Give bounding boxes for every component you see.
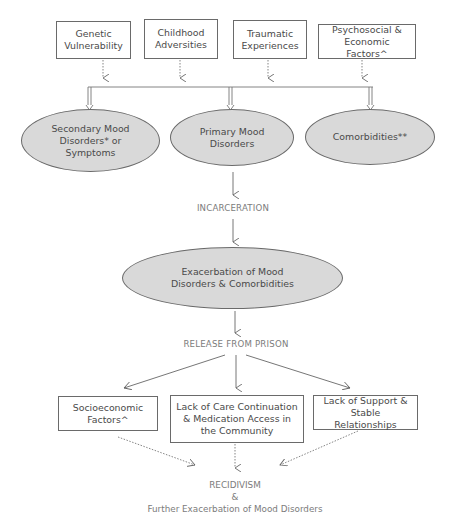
ellipse-text-line: Primary Mood <box>200 126 265 137</box>
post-release-lack-of-support: Lack of Support & Stable Relationships <box>313 395 418 430</box>
ellipse-text-line: Disorders & Comorbidities <box>171 278 294 289</box>
stage-incarceration: INCARCERATION <box>183 203 283 213</box>
flow-diagram: Genetic Vulnerability Childhood Adversit… <box>0 0 451 529</box>
ellipse-text-line: Symptoms <box>65 147 115 158</box>
box-text-line: Socioeconomic <box>73 402 143 413</box>
ellipse-exacerbation: Exacerbation of Mood Disorders & Comorbi… <box>122 247 343 309</box>
cropped-caption-line <box>0 525 451 529</box>
dotted-arrow-icon <box>103 60 362 78</box>
outcome-recidivism: RECIDIVISM <box>185 479 285 491</box>
box-text-line: Lack of Support & <box>324 395 408 406</box>
box-text-line: Genetic <box>75 28 111 39</box>
post-release-socioeconomic-factors: Socioeconomic Factors^ <box>58 396 158 431</box>
ellipse-text-line: Disorders* or <box>60 135 122 146</box>
box-text-line: Economic Factors^ <box>344 36 389 59</box>
risk-factor-psychosocial-economic: Psychosocial & Economic Factors^ <box>318 24 416 59</box>
box-text-line: & Medication Access in <box>183 413 291 424</box>
risk-factor-traumatic-experiences: Traumatic Experiences <box>233 20 307 59</box>
ellipse-text-line: Secondary Mood <box>51 123 129 134</box>
risk-factor-childhood-adversities: Childhood Adversities <box>144 19 218 59</box>
box-text-line: Factors^ <box>87 414 128 425</box>
ellipse-text-line: Exacerbation of Mood <box>181 266 283 277</box>
ellipse-text-line: Comorbidities** <box>333 131 407 142</box>
risk-factor-genetic-vulnerability: Genetic Vulnerability <box>56 21 131 59</box>
post-release-lack-of-care-continuation: Lack of Care Continuation & Medication A… <box>170 395 304 443</box>
ellipse-text-line: Disorders <box>210 138 255 149</box>
box-text-line: Lack of Care Continuation <box>176 401 297 412</box>
box-text-line: Traumatic <box>247 28 293 39</box>
box-text-line: Vulnerability <box>64 40 123 51</box>
outcome-further-exacerbation: Further Exacerbation of Mood Disorders <box>135 503 335 515</box>
bus-connector <box>86 87 374 110</box>
box-text-line: Adversities <box>155 39 207 50</box>
box-text-line: the Community <box>201 425 274 436</box>
box-text-line: Experiences <box>241 40 298 51</box>
ellipse-comorbidities: Comorbidities** <box>305 109 435 165</box>
box-text-line: Psychosocial & <box>332 24 402 35</box>
ellipse-secondary-mood-disorders: Secondary Mood Disorders* or Symptoms <box>21 109 160 172</box>
outcome-ampersand: & <box>185 491 285 503</box>
ellipse-primary-mood-disorders: Primary Mood Disorders <box>170 109 294 166</box>
stage-release-from-prison: RELEASE FROM PRISON <box>170 339 302 349</box>
box-text-line: Stable Relationships <box>334 407 396 430</box>
box-text-line: Childhood <box>157 27 204 38</box>
